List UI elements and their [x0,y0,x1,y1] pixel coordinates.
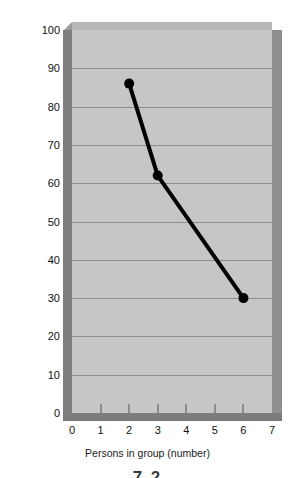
x-tick-label: 3 [146,424,170,436]
y-tick-label: 80 [26,101,60,113]
figure-caption: 7.2 [0,468,295,478]
y-tick-label: 50 [26,216,60,228]
x-tick-label: 7 [260,424,284,436]
plot-bevel-top [72,22,272,30]
data-series-line [72,30,272,413]
x-tick-label: 4 [174,424,198,436]
plot-bevel-bottom [63,413,282,421]
y-tick-label: 20 [26,330,60,342]
y-tick-label: 30 [26,292,60,304]
data-point-marker [153,171,163,181]
y-tick-label: 90 [26,62,60,74]
y-tick-label: 40 [26,254,60,266]
plot-bevel-right [272,30,282,413]
x-axis-title: Persons in group (number) [0,447,295,459]
y-tick-label: 70 [26,139,60,151]
y-tick-label: 100 [26,24,60,36]
x-axis-tick-labels: 01234567 [63,424,282,444]
x-tick-label: 5 [203,424,227,436]
data-point-marker [124,79,134,89]
y-tick-label: 0 [26,407,60,419]
plot-area [72,30,272,413]
y-tick-label: 10 [26,369,60,381]
figure-line-chart: Persons going to help victim (percentage… [0,0,295,478]
y-axis-tick-labels: 0102030405060708090100 [24,0,60,478]
x-tick-label: 1 [89,424,113,436]
plot-block [63,22,281,421]
data-point-marker [238,293,248,303]
series-polyline [129,84,243,298]
y-tick-label: 60 [26,177,60,189]
x-tick-label: 2 [117,424,141,436]
x-tick-label: 0 [60,424,84,436]
plot-bevel-left [63,30,72,413]
x-tick-label: 6 [231,424,255,436]
